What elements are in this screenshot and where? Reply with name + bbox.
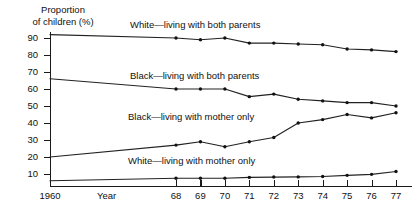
data-point	[199, 87, 202, 90]
data-point	[248, 41, 251, 44]
series-line-0	[50, 35, 396, 52]
data-point	[370, 48, 373, 51]
data-point	[199, 38, 202, 41]
data-point	[345, 47, 348, 50]
series-line-3	[50, 171, 396, 180]
data-point	[394, 170, 397, 173]
data-point	[321, 99, 324, 102]
data-point	[199, 140, 202, 143]
data-point	[370, 101, 373, 104]
series-line-1	[50, 79, 396, 106]
data-point	[272, 136, 275, 139]
data-point	[174, 36, 177, 39]
data-point	[297, 121, 300, 124]
data-point	[370, 173, 373, 176]
data-point	[174, 87, 177, 90]
data-point	[394, 50, 397, 53]
chart-container: Proportion of children (%) 1020304050607…	[0, 0, 420, 221]
data-point	[174, 177, 177, 180]
data-point	[321, 118, 324, 121]
data-point	[199, 177, 202, 180]
data-point	[345, 174, 348, 177]
data-point	[297, 175, 300, 178]
data-point	[321, 43, 324, 46]
series-label-2: Black—living with mother only	[128, 111, 254, 122]
series-label-0: White—living with both parents	[130, 19, 260, 30]
data-point	[297, 98, 300, 101]
data-point	[174, 143, 177, 146]
data-point	[223, 177, 226, 180]
data-point	[272, 41, 275, 44]
data-point	[370, 116, 373, 119]
data-point	[248, 176, 251, 179]
series-label-1: Black—living with both parents	[130, 70, 259, 81]
data-point	[223, 36, 226, 39]
data-point	[394, 111, 397, 114]
data-point	[272, 175, 275, 178]
series-label-3: White—living with mother only	[128, 155, 255, 166]
data-point	[223, 87, 226, 90]
data-point	[248, 95, 251, 98]
data-point	[272, 92, 275, 95]
data-point	[321, 175, 324, 178]
data-point	[394, 104, 397, 107]
data-point	[345, 113, 348, 116]
data-point	[248, 140, 251, 143]
data-point	[297, 42, 300, 45]
data-point	[223, 145, 226, 148]
data-point	[345, 101, 348, 104]
